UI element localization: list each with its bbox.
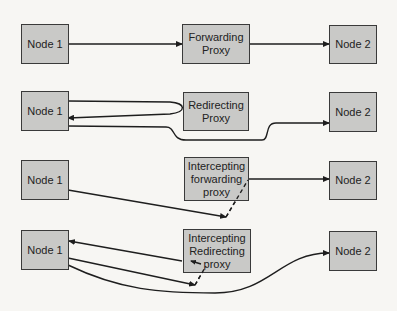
overlay-arrows: [0, 0, 397, 311]
proxy-types-diagram: Node 1 Forwarding Proxy Node 2 Node 1 Re…: [0, 0, 397, 311]
